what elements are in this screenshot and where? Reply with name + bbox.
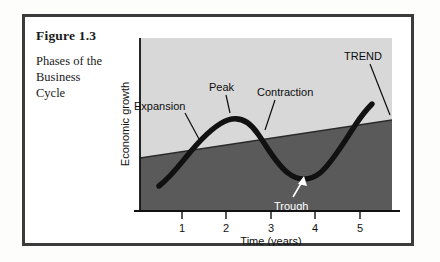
annotation-contraction: Contraction [257,86,313,98]
business-cycle-chart: Expansion Peak Contraction Trough TREND … [22,14,414,246]
x-tick-label-1: 1 [179,222,185,234]
x-tick-label-4: 4 [312,222,318,234]
annotation-peak: Peak [209,81,235,93]
x-tick-label-2: 2 [223,222,229,234]
annotation-trend: TREND [344,50,382,62]
y-axis-title: Economic growth [119,82,131,166]
figure-root: Figure 1.3 Phases of the Business Cycle [0,0,440,262]
x-axis-title: Time (years) [240,235,301,246]
x-tick-label-5: 5 [357,222,363,234]
x-tick-label-3: 3 [268,222,274,234]
annotation-expansion: Expansion [134,100,185,112]
chart-svg: Expansion Peak Contraction Trough TREND … [22,14,414,246]
plot-regions [140,38,392,211]
